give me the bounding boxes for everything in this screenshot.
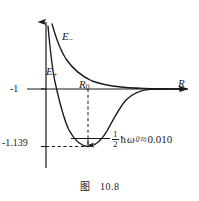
fraction-numerator: 1 <box>112 130 119 139</box>
caption-number: 10.8 <box>100 181 120 192</box>
antibonding-label-sub: − <box>69 35 73 44</box>
figure-caption: 图10.8 <box>0 178 199 193</box>
r-zero-base: R <box>79 78 86 90</box>
fraction-denominator: 2 <box>112 140 119 149</box>
figure-container: E− E+ R R0 -1 -1.139 1 2 ħω0≈0.010 图10.8 <box>0 0 199 201</box>
plot-canvas <box>0 0 199 201</box>
caption-prefix: 图 <box>80 181 91 192</box>
one-half-fraction: 1 2 <box>112 130 119 149</box>
y-tick-lower-label: -1.139 <box>2 138 28 148</box>
zero-point-energy-value: 0.010 <box>148 134 173 145</box>
bonding-label-base: E <box>46 65 53 77</box>
y-tick-upper-label: -1 <box>10 84 18 94</box>
hbar-symbol: ħ <box>121 134 127 145</box>
x-axis-label: R <box>178 78 185 89</box>
antibonding-curve-label: E− <box>62 31 73 44</box>
bonding-curve-label: E+ <box>46 66 57 79</box>
r-zero-sub: 0 <box>86 83 90 92</box>
zero-point-energy-annotation: 1 2 ħω0≈0.010 <box>112 130 172 149</box>
bonding-label-sub: + <box>53 70 57 79</box>
omega-symbol: ω <box>127 134 135 145</box>
omega-subscript: 0 <box>136 136 140 143</box>
antibonding-label-base: E <box>62 30 69 42</box>
approx-relation: ≈ <box>141 134 147 145</box>
equilibrium-distance-label: R0 <box>79 79 89 92</box>
